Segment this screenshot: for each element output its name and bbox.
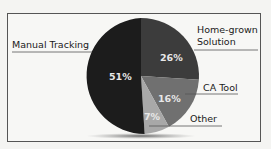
pct-catool: 16% bbox=[158, 93, 181, 104]
slice-home-grown[interactable] bbox=[141, 18, 199, 80]
label-other: Other bbox=[190, 113, 217, 124]
pct-other: 7% bbox=[144, 111, 161, 122]
label-manual-tracking: Manual Tracking bbox=[12, 39, 89, 50]
pct-homegrown: 26% bbox=[160, 52, 183, 63]
label-ca-tool: CA Tool bbox=[203, 82, 238, 93]
label-home-grown-line2: Solution bbox=[197, 36, 236, 47]
pie-shadow bbox=[86, 133, 196, 139]
label-home-grown-line1: Home-grown bbox=[197, 24, 258, 35]
pie-chart: 51% 26% 16% 7% bbox=[0, 0, 271, 149]
pct-manual: 51% bbox=[109, 71, 132, 82]
